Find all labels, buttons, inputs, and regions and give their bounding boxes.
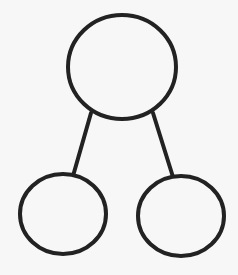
edge-root-to-left-child — [73, 113, 91, 176]
node-right-child — [138, 176, 224, 256]
node-circle — [138, 176, 224, 256]
tree-diagram — [0, 0, 238, 275]
nodes — [20, 15, 224, 256]
node-circle — [68, 15, 176, 119]
node-left-child — [20, 174, 106, 254]
edge-root-to-right-child — [153, 113, 173, 177]
node-circle — [20, 174, 106, 254]
node-root — [68, 15, 176, 119]
edges — [73, 113, 173, 177]
